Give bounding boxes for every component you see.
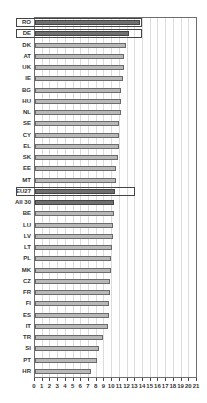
bar [35,110,121,115]
category-label: BE [0,208,31,219]
category-label: SK [0,152,31,163]
x-tick [49,378,50,381]
x-tick [42,378,43,381]
category-label: SI [0,343,31,354]
x-tick [196,378,197,381]
category-label: TR [0,332,31,343]
bar [35,324,108,329]
category-label: BG [0,85,31,96]
x-tick [134,378,135,381]
bar-row: HU [0,96,207,107]
x-tick [188,378,189,381]
bar-row: DE [0,28,207,39]
bar [35,166,116,171]
x-tick [150,378,151,381]
category-label: AT [0,51,31,62]
bar [35,369,91,374]
category-label: EE [0,163,31,174]
bar-row: AT [0,51,207,62]
bar-row: FR [0,287,207,298]
bar [35,200,114,205]
category-label: HR [0,366,31,377]
bar [35,346,99,351]
x-tick [80,378,81,381]
category-label: HU [0,96,31,107]
bar [35,279,110,284]
bar-row: IT [0,321,207,332]
bar-row: RO [0,17,207,28]
bar [35,54,124,59]
bar [35,43,126,48]
category-label: CZ [0,276,31,287]
category-label: PT [0,355,31,366]
bar-row: LT [0,242,207,253]
bar-row: SK [0,152,207,163]
bar [35,76,123,81]
category-label: ES [0,310,31,321]
x-tick [65,378,66,381]
bar [35,88,121,93]
bar [35,211,114,216]
x-tick [34,378,35,381]
x-tick [103,378,104,381]
category-label: CY [0,130,31,141]
x-tick [96,378,97,381]
bar-row: FI [0,298,207,309]
bar [35,268,111,273]
bar [35,121,119,126]
bar-row: IE [0,73,207,84]
bar [35,245,112,250]
bar [35,133,119,138]
x-tick [165,378,166,381]
category-label: IT [0,321,31,332]
bar-row: CY [0,130,207,141]
horizontal-bar-chart: RODEDKATUKIEBGHUNLSECYELSKEEMTEU27All 30… [0,0,207,403]
bar-row: EE [0,163,207,174]
bar-row: SE [0,118,207,129]
bar-row: CZ [0,276,207,287]
bar [35,256,111,261]
bar-row: DK [0,40,207,51]
bar-row: MK [0,265,207,276]
bar [35,65,124,70]
highlight-box [16,29,142,38]
category-label: LV [0,231,31,242]
x-tick [127,378,128,381]
category-label: MT [0,175,31,186]
x-tick [57,378,58,381]
highlight-box [16,187,135,196]
category-label: LT [0,242,31,253]
x-tick [173,378,174,381]
category-label: NL [0,107,31,118]
x-tick [142,378,143,381]
bar-row: BE [0,208,207,219]
bar [35,301,109,306]
bar [35,155,118,160]
category-label: DK [0,40,31,51]
category-label: SE [0,118,31,129]
category-label: MK [0,265,31,276]
x-tick [88,378,89,381]
bar [35,178,116,183]
bar [35,335,103,340]
bar [35,290,110,295]
bar [35,358,97,363]
category-label: EL [0,141,31,152]
x-tick [157,378,158,381]
bar [35,144,119,149]
category-label: LU [0,220,31,231]
x-tick [119,378,120,381]
category-label: PL [0,253,31,264]
bar-row: SI [0,343,207,354]
category-label: IE [0,73,31,84]
bar [35,99,121,104]
category-label: All 30 [0,197,31,208]
category-label: FR [0,287,31,298]
bar [35,223,113,228]
bar-row: PT [0,355,207,366]
bar-row: NL [0,107,207,118]
bar-row: All 30 [0,197,207,208]
x-tick [73,378,74,381]
bar-row: TR [0,332,207,343]
bar-row: EU27 [0,186,207,197]
